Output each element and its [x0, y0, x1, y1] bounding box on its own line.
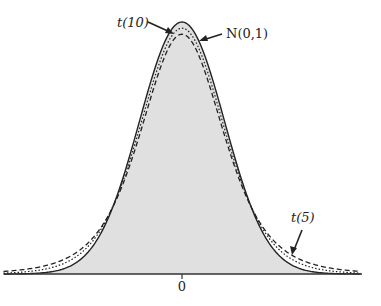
t5-label: t(5) [291, 210, 315, 225]
normal-label: N(0,1) [226, 26, 268, 41]
density-comparison-chart: 0 t(10) N(0,1) t(5) [0, 0, 381, 306]
t5-arrow [294, 230, 302, 250]
normal-fill-area [4, 22, 361, 274]
t10-label: t(10) [117, 15, 149, 30]
t5-arrowhead-icon [290, 246, 297, 255]
normal-arrowhead-icon [199, 35, 208, 41]
zero-tick-label: 0 [178, 279, 186, 294]
